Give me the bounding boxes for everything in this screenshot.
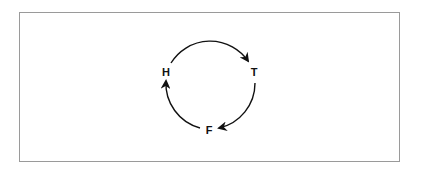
edge-f-to-h — [166, 81, 200, 128]
node-h: H — [162, 66, 170, 78]
edge-t-to-f — [219, 83, 255, 128]
cycle-diagram: H T F — [0, 0, 425, 175]
node-f: F — [206, 124, 213, 136]
edge-h-to-t — [171, 41, 248, 63]
node-t: T — [251, 66, 258, 78]
